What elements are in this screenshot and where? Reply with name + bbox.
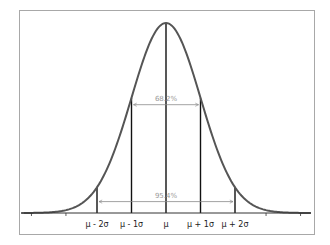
percentage-label: 95.4% [155,192,178,200]
x-tick-label: μ + 1σ [187,220,214,229]
x-tick-label: μ [163,220,168,229]
x-tick-label: μ + 2σ [221,220,248,229]
x-tick-label: μ - 1σ [120,220,143,229]
chart-frame [20,11,315,235]
x-tick-label: μ - 2σ [85,220,108,229]
percentage-label: 68.2% [155,95,178,103]
normal-distribution-chart: 68.2%95.4% μ - 2σμ - 1σμμ + 1σμ + 2σ [0,0,330,245]
